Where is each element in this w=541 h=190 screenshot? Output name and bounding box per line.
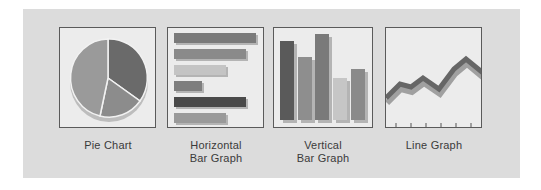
pie-chart-label: Pie Chart	[48, 139, 168, 152]
line-graph-frame	[385, 27, 482, 128]
vertical-bar-graph-frame	[273, 27, 373, 128]
vertical-bar-graph-icon	[274, 28, 373, 128]
pie-chart-frame	[59, 27, 156, 128]
horizontal-bar-graph-frame	[167, 27, 264, 128]
line-graph-label: Line Graph	[374, 139, 494, 152]
line-graph-icon	[386, 28, 482, 128]
pie-chart-icon	[60, 28, 156, 128]
horizontal-bar-graph-label: Horizontal Bar Graph	[156, 139, 276, 165]
vertical-bar-graph-label: Vertical Bar Graph	[263, 139, 383, 165]
horizontal-bar-graph-icon	[168, 28, 264, 128]
